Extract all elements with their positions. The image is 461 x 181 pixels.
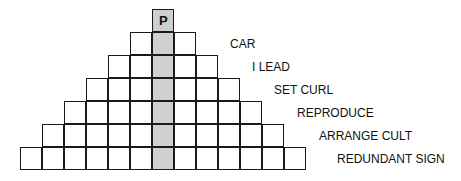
shaded-cell[interactable] [152,101,174,124]
grid-cell[interactable] [218,147,240,170]
grid-cell[interactable] [108,55,130,78]
grid-cell[interactable] [218,78,240,101]
grid-cell[interactable] [130,55,152,78]
grid-cell[interactable] [218,101,240,124]
clue-label: ARRANGE CULT [319,129,412,143]
grid-cell[interactable] [262,124,284,147]
cell-letter: P [153,13,173,28]
grid-cell[interactable] [240,147,262,170]
grid-cell[interactable] [284,147,306,170]
grid-cell[interactable] [174,147,196,170]
clue-label: SET CURL [274,83,333,97]
grid-cell[interactable] [174,32,196,55]
grid-cell[interactable] [108,101,130,124]
grid-cell[interactable] [130,147,152,170]
grid-cell[interactable] [196,101,218,124]
shaded-cell[interactable]: P [152,9,174,32]
shaded-cell[interactable] [152,78,174,101]
grid-cell[interactable] [240,101,262,124]
clue-label: I LEAD [252,60,290,74]
grid-cell[interactable] [64,124,86,147]
grid-cell[interactable] [196,78,218,101]
grid-cell[interactable] [196,55,218,78]
grid-cell[interactable] [64,147,86,170]
grid-cell[interactable] [174,55,196,78]
grid-cell[interactable] [42,124,64,147]
grid-cell[interactable] [108,147,130,170]
shaded-cell[interactable] [152,124,174,147]
grid-cell[interactable] [174,78,196,101]
grid-cell[interactable] [262,147,284,170]
grid-cell[interactable] [174,101,196,124]
clue-label: REPRODUCE [297,106,374,120]
shaded-cell[interactable] [152,147,174,170]
grid-cell[interactable] [240,124,262,147]
grid-cell[interactable] [174,124,196,147]
grid-cell[interactable] [196,124,218,147]
grid-cell[interactable] [42,147,64,170]
grid-cell[interactable] [86,78,108,101]
grid-cell[interactable] [64,101,86,124]
grid-cell[interactable] [130,101,152,124]
grid-cell[interactable] [130,78,152,101]
grid-cell[interactable] [218,124,240,147]
grid-cell[interactable] [86,124,108,147]
grid-cell[interactable] [130,124,152,147]
grid-cell[interactable] [196,147,218,170]
clue-label: REDUNDANT SIGN [337,152,445,166]
grid-cell[interactable] [108,78,130,101]
grid-cell[interactable] [130,32,152,55]
grid-cell[interactable] [108,124,130,147]
grid-cell[interactable] [86,101,108,124]
grid-cell[interactable] [20,147,42,170]
clue-label: CAR [230,37,255,51]
grid-cell[interactable] [86,147,108,170]
shaded-cell[interactable] [152,32,174,55]
shaded-cell[interactable] [152,55,174,78]
